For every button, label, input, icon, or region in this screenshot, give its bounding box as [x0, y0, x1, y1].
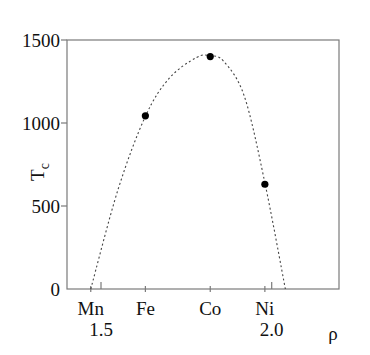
element-tick-label: Mn	[78, 298, 105, 319]
data-points	[142, 53, 269, 188]
element-tick-label: Fe	[136, 298, 155, 319]
parabolic-fit-curve	[91, 55, 286, 289]
element-tick-label: Co	[199, 298, 221, 319]
y-axis-label: Tc	[27, 163, 52, 181]
x-tick-label: 2.0	[260, 319, 284, 340]
y-tick-label: 500	[32, 196, 61, 217]
x-axis-label: ρ	[328, 323, 337, 344]
data-point-ni	[261, 181, 268, 188]
y-tick-label: 0	[51, 279, 61, 300]
data-point-fe	[142, 112, 149, 119]
element-tick-label: Ni	[255, 298, 274, 319]
x-axis-ticks: 1.52.0MnFeCoNi	[78, 282, 284, 340]
tc-vs-rho-chart: 050010001500 1.52.0MnFeCoNi Tc ρ	[0, 0, 370, 355]
y-tick-label: 1500	[22, 30, 60, 51]
plot-frame	[67, 40, 339, 289]
data-point-co	[207, 53, 214, 60]
y-tick-label: 1000	[22, 113, 60, 134]
x-tick-label: 1.5	[89, 319, 113, 340]
